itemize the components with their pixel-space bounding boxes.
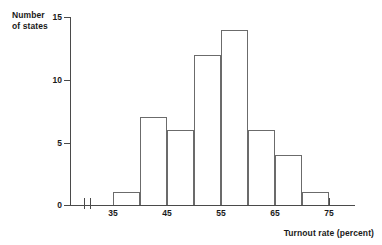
x-axis-line xyxy=(70,205,355,206)
histogram-bar xyxy=(167,130,194,205)
y-tick-label-15: 15 xyxy=(40,12,62,22)
y-axis-title-line-2: of states xyxy=(12,21,72,32)
y-axis-line xyxy=(70,17,71,206)
x-tick-label-65: 65 xyxy=(260,208,290,218)
histogram-bar xyxy=(275,155,302,205)
y-tick-10 xyxy=(64,80,70,81)
x-tick-75 xyxy=(329,198,330,205)
y-tick-label-0: 0 xyxy=(40,200,62,210)
histogram-bar xyxy=(194,55,221,205)
histogram-bar xyxy=(113,192,140,205)
histogram-chart: Number of states 15 10 5 0 35 45 55 65 7… xyxy=(0,0,382,245)
axis-break-mark-right xyxy=(90,198,91,209)
x-axis-title: Turnout rate (percent) xyxy=(284,228,374,238)
y-tick-5 xyxy=(64,143,70,144)
x-tick-label-55: 55 xyxy=(206,208,236,218)
histogram-bar xyxy=(248,130,275,205)
histogram-bar xyxy=(302,192,329,205)
x-tick-label-35: 35 xyxy=(98,208,128,218)
y-tick-15 xyxy=(64,17,70,18)
axis-break-mark-left xyxy=(84,198,85,209)
y-tick-0 xyxy=(64,205,70,206)
x-tick-label-75: 75 xyxy=(314,208,344,218)
histogram-bar xyxy=(140,117,167,205)
histogram-bar xyxy=(221,30,248,205)
y-tick-label-5: 5 xyxy=(40,138,62,148)
x-tick-label-45: 45 xyxy=(152,208,182,218)
y-tick-label-10: 10 xyxy=(40,75,62,85)
